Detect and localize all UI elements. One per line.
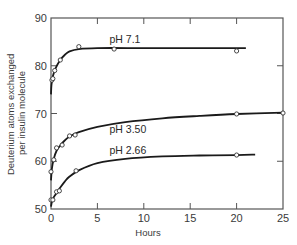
data-point — [73, 133, 77, 137]
data-point — [52, 158, 56, 162]
x-tick-label: 20 — [230, 212, 242, 224]
data-point — [77, 45, 81, 49]
data-point — [67, 134, 71, 138]
data-point — [58, 58, 62, 62]
data-point — [281, 111, 285, 115]
series-labels: pH 7.1pH 3.50pH 2.66 — [109, 33, 146, 155]
data-point — [51, 198, 55, 202]
data-point — [60, 143, 64, 147]
data-point — [112, 47, 116, 51]
chart: 05101520255060708090 pH 7.1pH 3.50pH 2.6… — [0, 0, 297, 245]
y-tick-label: 50 — [35, 203, 47, 215]
y-tick-label: 90 — [35, 12, 47, 24]
x-tick-label: 10 — [138, 212, 150, 224]
y-axis-label: Deuterium atoms exchanged per insulin mo… — [5, 51, 27, 175]
series-label: pH 2.66 — [109, 144, 146, 156]
series-curve — [51, 48, 246, 94]
y-axis-label-line-2: per insulin molecule — [16, 71, 27, 155]
y-axis-label-line-1: Deuterium atoms exchanged — [5, 54, 16, 175]
data-point — [235, 112, 239, 116]
y-tick-label: 70 — [35, 108, 47, 120]
x-tick-label: 25 — [277, 212, 289, 224]
x-tick-label: 5 — [94, 212, 100, 224]
data-point — [235, 153, 239, 157]
curves — [51, 48, 283, 207]
series-curve — [51, 113, 283, 181]
y-tick-label: 80 — [35, 60, 47, 72]
series-label: pH 7.1 — [109, 33, 140, 45]
y-tick-label: 60 — [35, 155, 47, 167]
data-points — [49, 45, 285, 202]
data-point — [57, 189, 61, 193]
data-point — [49, 170, 53, 174]
data-point — [53, 68, 57, 72]
x-tick-label: 0 — [48, 212, 54, 224]
x-axis-label: Hours — [135, 227, 161, 238]
x-tick-label: 15 — [184, 212, 196, 224]
series-curve — [51, 155, 255, 207]
series-label: pH 3.50 — [109, 123, 146, 135]
data-point — [74, 169, 78, 173]
data-point — [235, 49, 239, 53]
data-point — [51, 77, 55, 81]
data-point — [54, 146, 58, 150]
